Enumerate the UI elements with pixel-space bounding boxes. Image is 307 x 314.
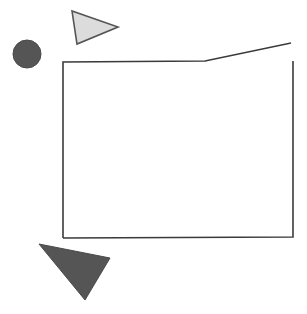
figure-canvas [0, 0, 307, 314]
dark-circle [13, 40, 41, 68]
shape-canvas [0, 0, 307, 314]
canvas-background [0, 0, 307, 314]
